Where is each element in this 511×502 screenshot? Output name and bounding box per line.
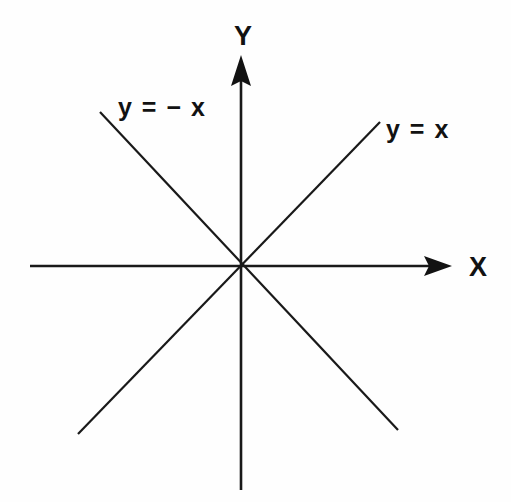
y-axis-label: Y (234, 21, 252, 51)
figure-canvas: Y X y = − x y = x (0, 0, 511, 502)
x-axis-label: X (469, 252, 487, 282)
label-y-equals-minus-x: y = − x (118, 93, 206, 121)
label-y-equals-x: y = x (386, 115, 450, 143)
coordinate-plane-diagram: Y X y = − x y = x (0, 0, 511, 502)
line-y-equals-minus-x (100, 112, 398, 430)
line-y-equals-x (78, 122, 380, 434)
